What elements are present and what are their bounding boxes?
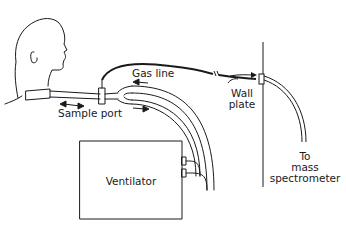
patient-shoulder [5, 96, 22, 104]
patient-ear [31, 52, 37, 63]
label-plate: plate [226, 99, 258, 110]
wall-plate [259, 74, 264, 84]
label-gas-line: Gas line [132, 68, 174, 79]
diagram-drawing [0, 0, 346, 229]
trach-tube [26, 89, 50, 100]
patient-head [15, 19, 67, 98]
sample-port-t [99, 88, 105, 104]
y-piece [118, 86, 132, 104]
label-ventilator: Ventilator [80, 176, 182, 187]
diagram-canvas: Gas line Sample port Wall plate Ventilat… [0, 0, 346, 229]
label-spectrometer: spectrometer [268, 173, 342, 184]
label-sample-port: Sample port [58, 108, 122, 119]
